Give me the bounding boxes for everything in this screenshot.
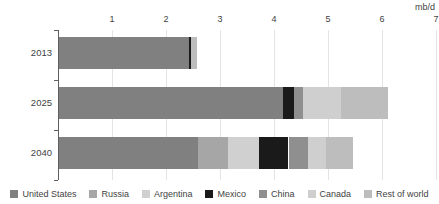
gridline bbox=[436, 30, 437, 180]
axis-tick-mark bbox=[54, 130, 58, 131]
legend-swatch-icon bbox=[308, 190, 316, 198]
bar-segment bbox=[326, 137, 353, 169]
legend-item[interactable]: Argentina bbox=[142, 189, 193, 199]
category-label-2025: 2025 bbox=[8, 97, 52, 108]
legend-label: Russia bbox=[101, 189, 129, 199]
units-label: mb/d bbox=[415, 2, 435, 12]
x-tick-label: 5 bbox=[325, 14, 330, 24]
axis-tick-mark bbox=[54, 180, 58, 181]
legend-swatch-icon bbox=[205, 190, 213, 198]
legend-label: United States bbox=[22, 189, 76, 199]
legend-label: Mexico bbox=[217, 189, 246, 199]
plot-area: 1234567 bbox=[58, 30, 436, 180]
bar-segment bbox=[198, 137, 228, 169]
bar-segment bbox=[283, 87, 294, 119]
axis-tick-mark bbox=[54, 30, 58, 31]
legend-swatch-icon bbox=[259, 190, 267, 198]
category-label-2040: 2040 bbox=[8, 147, 52, 158]
x-tick-label: 4 bbox=[271, 14, 276, 24]
legend-item[interactable]: Russia bbox=[89, 189, 129, 199]
bar-segment bbox=[191, 37, 196, 69]
bar-segment bbox=[259, 137, 288, 169]
bar-segment bbox=[59, 137, 198, 169]
stacked-bar-chart: mb/d 1234567 201320252040 United StatesR… bbox=[0, 0, 439, 204]
category-label-2013: 2013 bbox=[8, 47, 52, 58]
bar-segment bbox=[289, 137, 308, 169]
legend-item[interactable]: Canada bbox=[308, 189, 352, 199]
bar-segment bbox=[294, 87, 303, 119]
x-tick-label: 3 bbox=[217, 14, 222, 24]
bar-segment bbox=[228, 137, 259, 169]
x-tick-label: 2 bbox=[163, 14, 168, 24]
bar-segment bbox=[308, 137, 326, 169]
legend-item[interactable]: United States bbox=[10, 189, 76, 199]
legend-label: Rest of world bbox=[376, 189, 429, 199]
x-tick-label: 1 bbox=[109, 14, 114, 24]
legend-item[interactable]: Mexico bbox=[205, 189, 246, 199]
legend-swatch-icon bbox=[142, 190, 150, 198]
legend-swatch-icon bbox=[89, 190, 97, 198]
bar-segment bbox=[59, 87, 283, 119]
bar-segment bbox=[303, 87, 342, 119]
legend-swatch-icon bbox=[364, 190, 372, 198]
axis-tick-mark bbox=[54, 80, 58, 81]
x-tick-label: 7 bbox=[433, 14, 438, 24]
bar-segment bbox=[59, 37, 189, 69]
legend-item[interactable]: Rest of world bbox=[364, 189, 429, 199]
legend-swatch-icon bbox=[10, 190, 18, 198]
bar-segment bbox=[341, 87, 388, 119]
x-tick-label: 6 bbox=[379, 14, 384, 24]
chart-legend: United StatesRussiaArgentinaMexicoChinaC… bbox=[0, 184, 439, 204]
legend-label: China bbox=[271, 189, 295, 199]
legend-item[interactable]: China bbox=[259, 189, 295, 199]
legend-label: Argentina bbox=[154, 189, 193, 199]
legend-label: Canada bbox=[320, 189, 352, 199]
